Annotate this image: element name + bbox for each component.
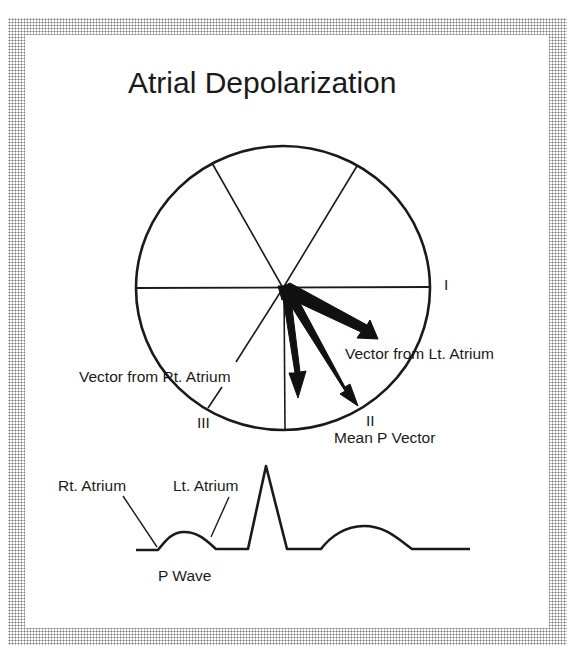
lead-I-label: I (444, 276, 448, 294)
lt-atrium-leader-line (211, 497, 229, 537)
right-atrium-vector-label: Vector from Rt. Atrium (79, 368, 231, 386)
lead-III-label: III (197, 414, 210, 432)
page-title: Atrial Depolarization (128, 66, 396, 100)
mean-p-vector-label: Mean P Vector (334, 429, 435, 447)
left-atrium-vector-label: Vector from Lt. Atrium (345, 345, 494, 363)
ecg-lt-atrium-label: Lt. Atrium (173, 477, 238, 495)
ecg-rt-atrium-label: Rt. Atrium (58, 477, 126, 495)
lead-III-spoke-lower (208, 387, 222, 408)
lead-III-spoke-upper (236, 288, 283, 362)
lead-II-label: II (366, 412, 375, 430)
upper-right-spoke (283, 166, 357, 288)
ecg-p-wave-label: P Wave (158, 567, 211, 585)
rt-atrium-leader-line (123, 496, 157, 547)
upper-left-spoke (212, 163, 283, 288)
ecg-leaders (123, 496, 229, 547)
